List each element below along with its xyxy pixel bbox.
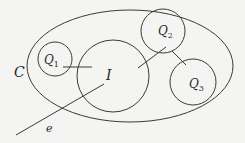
external-edge-label-e: e bbox=[46, 122, 53, 135]
node-label-q3: Q3 bbox=[189, 77, 204, 93]
node-circle-i bbox=[77, 40, 149, 112]
external-edge-e bbox=[16, 84, 104, 135]
container-label-c: C bbox=[14, 64, 25, 80]
node-label-q1: Q1 bbox=[44, 53, 59, 69]
node-label-q2: Q2 bbox=[158, 24, 173, 40]
node-label-i: I bbox=[105, 67, 112, 83]
set-diagram: C Q1 I Q2 Q3 e bbox=[0, 0, 245, 143]
edge-q2-q3 bbox=[172, 51, 186, 65]
